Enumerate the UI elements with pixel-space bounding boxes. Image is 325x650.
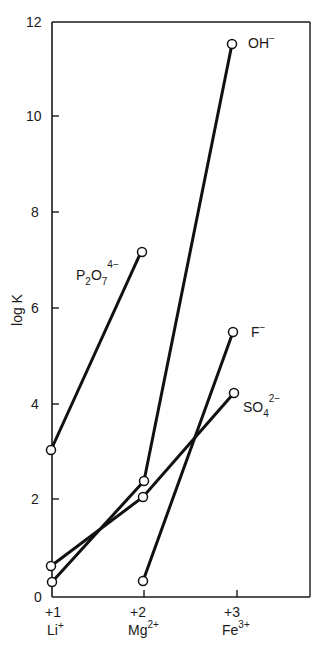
ytick-8: 8 [31, 204, 39, 220]
ytick-2: 2 [31, 491, 39, 507]
marker-f-fe [229, 328, 238, 337]
x-axis-ticks [144, 590, 237, 597]
xlabel-charge-1: +1 [45, 604, 61, 620]
ytick-6: 6 [31, 300, 39, 316]
ytick-0: 0 [34, 589, 42, 605]
label-f: F− [251, 322, 266, 340]
xlabel-charge-3: +3 [224, 604, 240, 620]
ytick-10: 10 [26, 108, 42, 124]
series-unlabeled-line [52, 481, 144, 582]
marker-so4-fe [230, 389, 239, 398]
x-axis-labels: +1 Li+ +2 Mg2+ +3 Fe3+ [45, 604, 250, 638]
xlabel-ion-li: Li+ [47, 620, 64, 638]
ytick-12: 12 [26, 14, 42, 30]
marker-p2o7-mg [138, 248, 147, 257]
marker-so4-li [47, 562, 56, 571]
marker-so4-mg [139, 493, 148, 502]
series-oh-line [144, 44, 232, 481]
label-so4: SO42− [243, 393, 280, 419]
label-p2o7: P2O74− [76, 259, 119, 287]
ytick-4: 4 [31, 396, 39, 412]
xlabel-ion-fe: Fe3+ [222, 619, 250, 638]
y-axis-title: log K [9, 293, 25, 326]
xlabel-ion-mg: Mg2+ [128, 619, 159, 638]
chart-canvas: 12 10 8 6 4 2 0 log K +1 Li+ +2 Mg2+ +3 … [0, 0, 325, 650]
series-f-line [143, 332, 233, 581]
y-axis-labels: 12 10 8 6 4 2 0 [26, 14, 42, 605]
marker-oh-mg [140, 477, 149, 486]
plot-frame [52, 22, 310, 597]
data-markers [47, 40, 239, 587]
marker-f-mg [139, 577, 148, 586]
marker-li-low [48, 578, 57, 587]
marker-oh-fe [228, 40, 237, 49]
marker-p2o7-li [47, 446, 56, 455]
label-oh: OH− [248, 33, 275, 51]
xlabel-charge-2: +2 [130, 604, 146, 620]
